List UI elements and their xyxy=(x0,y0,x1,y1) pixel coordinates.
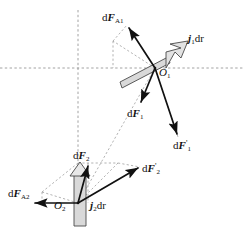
label-j2dr-tail: dr xyxy=(97,199,106,211)
label-dF-A1-symbol: F xyxy=(108,11,115,23)
current-element-1 xyxy=(120,41,188,88)
figure-canvas xyxy=(0,0,244,238)
label-dF-2-prime-sub: 2 xyxy=(157,168,161,176)
construction-lines xyxy=(42,25,178,203)
label-dF-1-prime: dF'1 xyxy=(173,140,191,153)
vector-dF-A1 xyxy=(129,28,155,68)
label-dF-2-sub: 2 xyxy=(86,155,90,163)
label-dF-1: dF1 xyxy=(127,108,144,121)
axis-lines xyxy=(0,10,244,196)
label-dF-1-prime-sub: 1 xyxy=(188,145,192,153)
current-element-1-head xyxy=(166,41,188,68)
origin-point-O1 xyxy=(154,67,157,70)
construction-upper-left xyxy=(113,41,155,68)
label-dF-2: dF2 xyxy=(73,150,90,163)
force-diagram-figure: dFA1 j1dr O1 dF1 dF'1 dF2 dF'2 dFA2 O2 j… xyxy=(0,0,244,238)
label-dF-A1-sub: A1 xyxy=(115,17,124,25)
label-dF-A2-sub: A2 xyxy=(21,193,30,201)
label-dF-A1: dFA1 xyxy=(102,12,124,25)
construction-connector-O1-O2 xyxy=(78,68,155,203)
label-O2-sub: 2 xyxy=(62,205,66,213)
construction-upper-right xyxy=(113,25,127,41)
label-O1-symbol: O xyxy=(159,66,167,78)
label-dF-2-symbol: F xyxy=(79,149,86,161)
label-dF-A2: dFA2 xyxy=(8,188,30,201)
label-dF-1-sub: 1 xyxy=(140,113,144,121)
label-dF-1-prime-symbol: F xyxy=(179,139,186,151)
label-O2: O2 xyxy=(54,200,66,213)
label-dF-2-prime-symbol: F xyxy=(148,162,155,174)
label-dF-2-prime: dF'2 xyxy=(142,163,160,176)
label-j1dr: j1dr xyxy=(188,33,204,46)
label-dF-A2-symbol: F xyxy=(14,187,21,199)
label-j1dr-tail: dr xyxy=(195,32,204,44)
label-O1: O1 xyxy=(159,67,171,80)
construction-lower-left xyxy=(42,163,78,192)
label-dF-1-symbol: F xyxy=(133,107,140,119)
force-vectors-lower xyxy=(35,166,138,203)
label-O2-symbol: O xyxy=(54,199,62,211)
origin-point-O2 xyxy=(77,202,80,205)
construction-lower-right xyxy=(118,163,140,167)
label-O1-sub: 1 xyxy=(167,72,171,80)
label-j2dr: j2dr xyxy=(90,200,106,213)
